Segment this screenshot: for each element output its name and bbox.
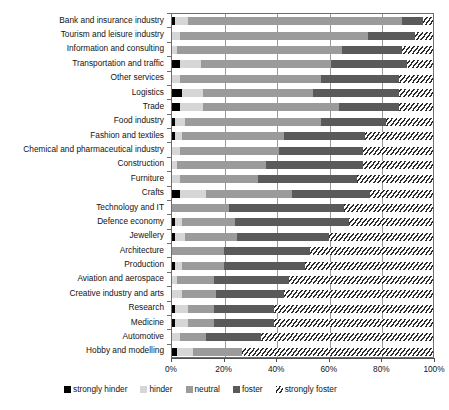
bar-row [172, 276, 433, 284]
category-label: Bank and insurance industry [59, 16, 164, 25]
bar-segment-strongly-foster [407, 60, 433, 68]
y-axis-tick [167, 99, 171, 100]
bar-row [172, 132, 433, 140]
bar-segment-neutral [180, 175, 258, 183]
bar-segment-neutral [177, 161, 266, 169]
bar-segment-strongly-foster [329, 233, 433, 241]
bar-segment-foster [321, 75, 399, 83]
bar-segment-hinder [180, 190, 206, 198]
legend-swatch-icon [233, 386, 240, 393]
y-axis-tick [167, 186, 171, 187]
y-axis-tick [167, 27, 171, 28]
bar-segment-strongly-hinder [172, 89, 182, 97]
x-axis-tick [171, 358, 172, 362]
category-label: Trade [143, 102, 164, 111]
category-label: Defence economy [97, 217, 164, 226]
category-label: Architecture [120, 246, 164, 255]
bar-row [172, 333, 433, 341]
x-axis-tick-label: 0% [151, 364, 191, 374]
bar-segment-foster [284, 132, 365, 140]
y-axis-tick [167, 286, 171, 287]
bar-segment-strongly-hinder [172, 103, 180, 111]
bar-segment-hinder [175, 319, 188, 327]
bar-segment-foster [266, 161, 363, 169]
legend-item: neutral [186, 385, 220, 394]
bar-segment-neutral [180, 333, 206, 341]
bar-segment-foster [224, 247, 310, 255]
bar-segment-foster [214, 276, 290, 284]
bar-segment-neutral [185, 233, 237, 241]
bar-row [172, 190, 433, 198]
bar-segment-foster [258, 175, 357, 183]
y-axis-tick [167, 229, 171, 230]
x-axis-tick [276, 358, 277, 362]
bar-row [172, 60, 433, 68]
bar-segment-strongly-foster [274, 319, 433, 327]
category-label: Construction [117, 159, 164, 168]
bar-row [172, 147, 433, 155]
bar-segment-foster [368, 32, 415, 40]
bar-segment-strongly-foster [399, 89, 433, 97]
x-axis-tick-label: 60% [309, 364, 349, 374]
bar-row [172, 204, 433, 212]
bar-row [172, 32, 433, 40]
bar-row [172, 319, 433, 327]
bar-segment-strongly-foster [284, 290, 433, 298]
y-axis-tick [167, 200, 171, 201]
bar-row [172, 233, 433, 241]
y-axis-tick [167, 157, 171, 158]
bar-segment-strongly-foster [399, 103, 433, 111]
y-axis-tick [167, 142, 171, 143]
bar-segment-hinder [175, 17, 188, 25]
bar-segment-foster [342, 46, 402, 54]
bar-segment-neutral [182, 290, 216, 298]
legend-label: neutral [195, 385, 220, 394]
bar-segment-neutral [203, 103, 339, 111]
category-axis-labels: Bank and insurance industryTourism and l… [0, 13, 168, 358]
bar-row [172, 75, 433, 83]
bar-segment-neutral [182, 262, 224, 270]
bar-segment-foster [235, 218, 350, 226]
bar-segment-strongly-foster [370, 190, 433, 198]
y-axis-tick [167, 13, 171, 14]
legend-item: hinder [140, 385, 172, 394]
category-label: Fashion and textiles [90, 131, 164, 140]
bar-segment-strongly-foster [310, 247, 433, 255]
bar-segment-strongly-foster [289, 276, 433, 284]
bar-segment-strongly-foster [363, 147, 433, 155]
bar-segment-neutral [203, 89, 313, 97]
bar-segment-foster [402, 17, 423, 25]
y-axis-tick [167, 315, 171, 316]
bar-segment-neutral [180, 147, 279, 155]
category-label: Automotive [122, 332, 164, 341]
bar-segment-strongly-hinder [172, 60, 180, 68]
category-label: Creative industry and arts [69, 289, 164, 298]
bar-segment-foster [292, 190, 370, 198]
bar-segment-neutral [188, 305, 214, 313]
legend-swatch-icon [140, 386, 147, 393]
category-label: Information and consulting [67, 44, 164, 53]
bar-row [172, 161, 433, 169]
bar-row [172, 17, 433, 25]
legend-label: hinder [149, 385, 172, 394]
y-axis-tick [167, 128, 171, 129]
bar-segment-strongly-foster [344, 204, 433, 212]
bar-segment-strongly-foster [357, 175, 433, 183]
bar-segment-hinder [175, 132, 183, 140]
bar-segment-strongly-foster [261, 333, 433, 341]
y-axis-tick [167, 243, 171, 244]
bar-segment-strongly-foster [402, 46, 433, 54]
category-label: Logistics [132, 88, 164, 97]
bar-segment-neutral [177, 276, 214, 284]
bar-row [172, 290, 433, 298]
category-label: Other services [111, 73, 164, 82]
y-axis-tick [167, 42, 171, 43]
bar-segment-hinder [172, 147, 180, 155]
bar-segment-strongly-foster [242, 348, 433, 356]
category-label: Chemical and pharmaceutical industry [23, 145, 164, 154]
bar-row [172, 218, 433, 226]
bar-segment-neutral [177, 46, 341, 54]
bar-segment-neutral [188, 17, 402, 25]
legend-item: strongly hinder [64, 385, 127, 394]
